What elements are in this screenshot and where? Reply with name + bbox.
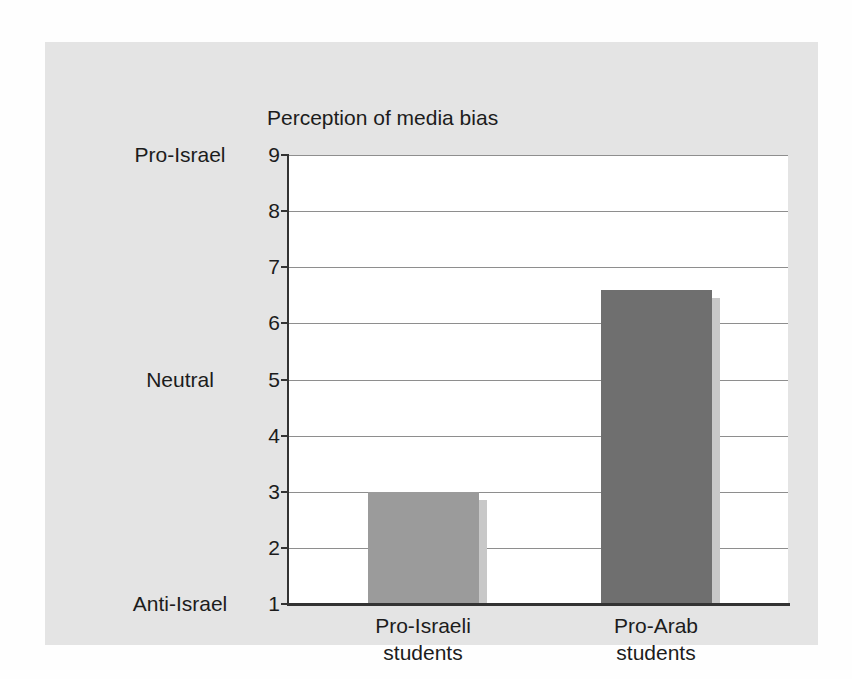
bar-pro-israeli-students <box>368 492 479 604</box>
y-axis-tick <box>281 322 287 324</box>
x-category-label-pro-israeli-students: Pro-Israelistudents <box>333 612 513 666</box>
chart-panel: Perception of media bias 123456789Pro-Is… <box>45 42 818 645</box>
bar-pro-arab-students <box>601 290 712 604</box>
y-tick-label: 2 <box>240 536 280 560</box>
y-axis-tick <box>281 379 287 381</box>
y-axis-tick <box>281 266 287 268</box>
y-axis-tick <box>281 154 287 156</box>
scale-label-neutral: Neutral <box>105 368 255 392</box>
y-tick-label: 3 <box>240 480 280 504</box>
y-tick-label: 7 <box>240 255 280 279</box>
plot-area <box>288 155 788 604</box>
x-category-label-line: Pro-Israeli <box>333 612 513 639</box>
scale-label-anti-israel: Anti-Israel <box>105 592 255 616</box>
x-axis-line <box>287 603 790 606</box>
x-category-label-line: students <box>333 639 513 666</box>
y-axis-tick <box>281 547 287 549</box>
chart-title: Perception of media bias <box>267 106 498 130</box>
x-category-label-line: students <box>566 639 746 666</box>
gridline <box>288 211 788 212</box>
y-axis-tick <box>281 435 287 437</box>
gridline <box>288 267 788 268</box>
y-tick-label: 6 <box>240 311 280 335</box>
gridline <box>288 155 788 156</box>
y-tick-label: 4 <box>240 424 280 448</box>
figure-page: Perception of media bias 123456789Pro-Is… <box>0 0 852 679</box>
y-axis-tick <box>281 210 287 212</box>
x-category-label-line: Pro-Arab <box>566 612 746 639</box>
y-axis-tick <box>281 491 287 493</box>
scale-label-pro-israel: Pro-Israel <box>105 143 255 167</box>
y-tick-label: 8 <box>240 199 280 223</box>
x-category-label-pro-arab-students: Pro-Arabstudents <box>566 612 746 666</box>
y-axis-line <box>287 154 289 605</box>
y-axis-tick <box>281 603 287 605</box>
